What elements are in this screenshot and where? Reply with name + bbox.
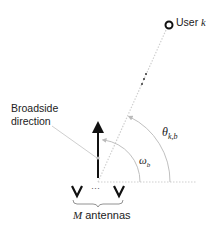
antennas-text: antennas xyxy=(85,209,130,221)
ellipsis-dot xyxy=(145,73,147,75)
antenna-icon-right xyxy=(114,186,124,196)
array-ellipsis: ··· xyxy=(91,182,100,195)
antenna-underbrace xyxy=(73,200,123,207)
pointer-dot xyxy=(96,156,99,159)
antennas-label: M antennas xyxy=(73,209,131,222)
omega-arc xyxy=(104,140,140,182)
antennas-symbol: M xyxy=(73,209,82,221)
ellipsis-dot xyxy=(141,83,143,85)
user-index: k xyxy=(201,17,206,28)
user-node-icon xyxy=(166,22,173,29)
omega-subscript: b xyxy=(147,161,151,169)
broadside-line2: direction xyxy=(11,115,58,128)
theta-label: θk,b xyxy=(162,126,177,143)
broadside-line1: Broadside xyxy=(11,102,58,115)
antenna-icon-left xyxy=(72,186,82,196)
omega-symbol: ω xyxy=(139,154,147,166)
broadside-label: Broadside direction xyxy=(11,102,58,128)
user-text: User xyxy=(176,16,198,28)
user-label: User k xyxy=(176,16,206,29)
theta-subscript: k,b xyxy=(168,132,178,141)
ellipsis-dot xyxy=(143,78,145,80)
user-direction-line xyxy=(98,30,166,182)
omega-label: ωb xyxy=(139,154,150,172)
broadside-pointer-line xyxy=(52,126,97,158)
